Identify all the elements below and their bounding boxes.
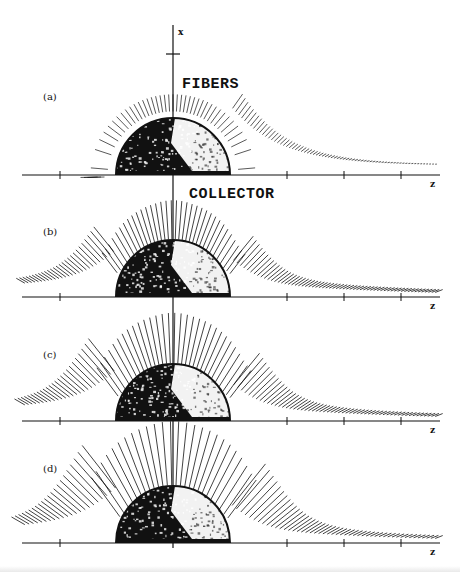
sphere-speckle — [153, 285, 155, 287]
fiber — [228, 132, 243, 141]
fiber — [69, 366, 92, 387]
sphere-speckle — [204, 120, 206, 122]
sphere-speckle — [204, 281, 207, 283]
sphere-speckle — [173, 381, 174, 382]
sphere-speckle — [213, 387, 216, 388]
sphere-speckle — [153, 258, 156, 260]
sphere-speckle — [221, 129, 222, 131]
sphere-speckle — [203, 157, 205, 159]
fiber — [376, 161, 379, 162]
sphere-speckle — [121, 406, 123, 408]
sphere-speckle — [193, 142, 196, 143]
sphere-speckle — [213, 407, 216, 408]
sphere-speckle — [181, 399, 183, 401]
sphere-speckle — [152, 522, 154, 524]
sphere-speckle — [141, 282, 143, 284]
sphere-speckle — [171, 150, 174, 152]
sphere-speckle — [175, 282, 177, 284]
sphere-speckle — [133, 385, 134, 387]
sphere-speckle — [161, 370, 164, 372]
sphere-speckle — [229, 151, 231, 153]
fiber — [241, 363, 266, 390]
fiber — [60, 376, 80, 393]
fiber — [57, 379, 77, 395]
sphere-speckle — [153, 391, 156, 393]
sphere-speckle — [144, 161, 146, 163]
sphere-speckle — [212, 266, 215, 268]
sphere-speckle — [162, 271, 163, 273]
sphere-speckle — [221, 409, 223, 411]
sphere-speckle — [200, 512, 202, 513]
sphere-speckle — [219, 154, 221, 155]
fiber — [154, 424, 163, 487]
sphere-speckle — [139, 137, 140, 139]
sphere-speckle — [179, 528, 181, 530]
sphere-speckle — [166, 386, 167, 388]
sphere-speckle — [122, 380, 124, 381]
fiber — [353, 531, 363, 536]
sphere-speckle — [200, 411, 203, 413]
sphere-speckle — [196, 524, 199, 526]
sphere-speckle — [139, 290, 142, 292]
fiber — [366, 532, 375, 536]
sphere-speckle — [144, 256, 146, 257]
sphere-speckle — [126, 152, 127, 153]
sphere-speckle — [171, 260, 173, 262]
fiber — [162, 314, 167, 364]
fiber — [82, 445, 115, 488]
sphere-speckle — [161, 242, 163, 243]
sphere-speckle — [154, 145, 156, 146]
sphere-speckle — [154, 496, 155, 498]
fiber — [150, 318, 159, 366]
sphere-speckle — [229, 377, 231, 378]
sphere-speckle — [132, 274, 134, 276]
sphere-speckle — [187, 385, 188, 387]
sphere-speckle — [162, 123, 165, 124]
sphere-speckle — [176, 390, 178, 391]
sphere-speckle — [165, 139, 168, 141]
sphere-speckle — [182, 500, 183, 502]
fiber — [322, 283, 330, 288]
sphere-speckle — [165, 535, 166, 537]
fiber — [384, 287, 391, 290]
sphere-speckle — [166, 245, 168, 247]
sphere-speckle — [219, 489, 221, 491]
sphere-speckle — [125, 400, 126, 402]
sphere-speckle — [134, 155, 136, 157]
sphere-speckle — [150, 501, 152, 503]
sphere-speckle — [168, 366, 170, 367]
fiber — [66, 370, 88, 390]
fiber — [387, 412, 395, 415]
fiber — [387, 288, 394, 291]
sphere-speckle — [217, 124, 220, 126]
sphere-speckle — [213, 288, 216, 290]
sphere-speckle — [124, 277, 126, 279]
sphere-speckle — [224, 251, 225, 252]
sphere-speckle — [201, 122, 203, 124]
sphere-speckle — [118, 143, 119, 145]
fiber — [162, 422, 167, 485]
sphere-speckle — [130, 370, 133, 372]
fiber — [253, 119, 261, 129]
sphere-speckle — [175, 285, 177, 287]
sphere-speckle — [166, 147, 169, 149]
sphere-speckle — [132, 504, 133, 506]
fiber — [151, 97, 156, 113]
sphere-speckle — [182, 121, 184, 122]
sphere-fill — [116, 364, 231, 423]
sphere-speckle — [164, 528, 166, 530]
sphere-speckle — [154, 386, 156, 387]
sphere-speckle — [194, 525, 197, 527]
sphere-speckle — [157, 371, 159, 372]
sphere-speckle — [116, 495, 118, 496]
fiber — [26, 277, 35, 283]
sphere-speckle — [167, 253, 170, 255]
sphere-speckle — [217, 391, 219, 393]
sphere-speckle — [228, 383, 230, 385]
sphere-speckle — [143, 283, 145, 285]
fiber — [346, 285, 354, 289]
sphere-speckle — [192, 162, 194, 163]
fiber — [350, 285, 358, 289]
fiber — [352, 159, 355, 160]
sphere-speckle — [147, 489, 148, 491]
